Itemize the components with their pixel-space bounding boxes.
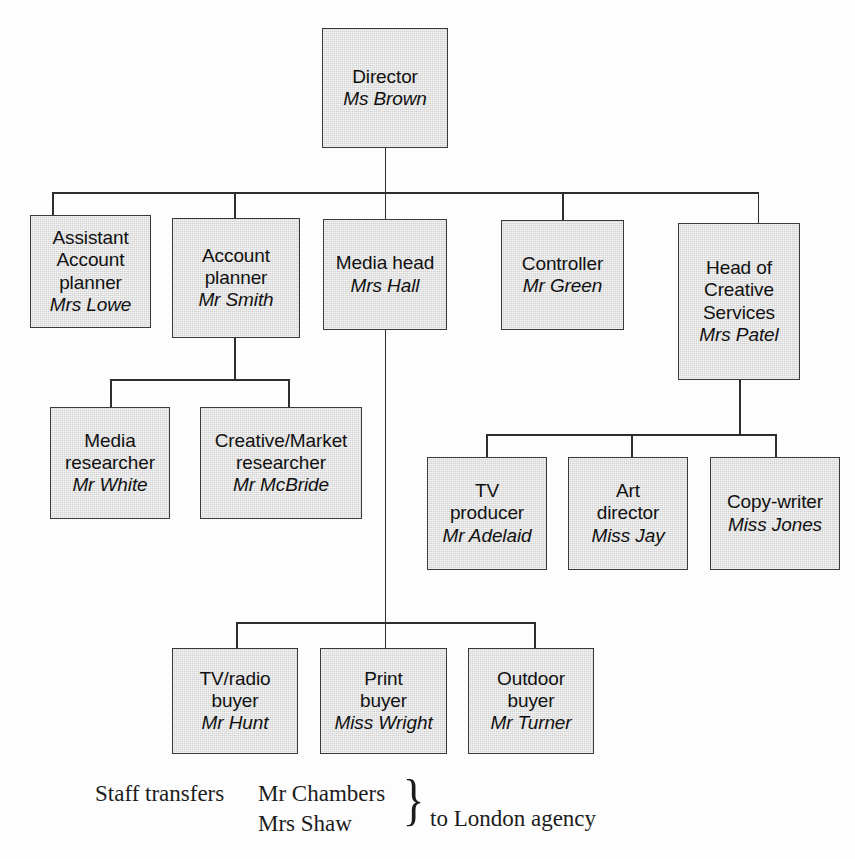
node-head-of-creative-services-role: Head of Creative Services <box>703 257 775 324</box>
node-media-head-role: Media head <box>336 252 434 274</box>
connector-researchers-bus <box>110 379 289 381</box>
node-tv-radio-buyer-person: Mr Hunt <box>202 712 269 734</box>
connector-drop-assistant-planner <box>52 192 54 215</box>
node-copy-writer[interactable]: Copy-writer Miss Jones <box>710 457 840 570</box>
node-creative-market-researcher-person: Mr McBride <box>233 474 329 496</box>
footnote-transfer-names: Mr Chambers Mrs Shaw <box>258 779 385 840</box>
connector-drop-copywriter <box>775 434 777 457</box>
node-assistant-account-planner-person: Mrs Lowe <box>50 294 132 316</box>
connector-drop-media-researcher <box>110 379 112 407</box>
footnote-brace-icon: } <box>403 772 425 828</box>
node-print-buyer-role: Print buyer <box>360 668 407 712</box>
footnote-name-2: Mrs Shaw <box>258 809 385 839</box>
connector-drop-account-planner <box>234 192 236 218</box>
node-print-buyer-person: Miss Wright <box>334 712 432 734</box>
connector-media-head-spine <box>385 330 387 623</box>
connector-drop-creative-head <box>758 192 760 223</box>
node-tv-radio-buyer-role: TV/radio buyer <box>199 668 270 712</box>
connector-drop-tv-radio-buyer <box>236 622 238 648</box>
node-print-buyer[interactable]: Print buyer Miss Wright <box>320 648 447 754</box>
node-head-of-creative-services-person: Mrs Patel <box>699 324 778 346</box>
node-creative-market-researcher-role: Creative/Market researcher <box>215 430 348 474</box>
node-media-researcher-person: Mr White <box>72 474 147 496</box>
connector-creative-head-stem <box>739 380 741 435</box>
connector-director-stem <box>385 148 387 193</box>
organisation-chart: Director Ms Brown Assistant Account plan… <box>0 0 855 859</box>
connector-drop-media-head <box>385 192 387 219</box>
connector-account-planner-stem <box>234 338 236 380</box>
node-copy-writer-person: Miss Jones <box>728 514 822 536</box>
node-director-role: Director <box>352 66 418 88</box>
node-director-person: Ms Brown <box>343 88 427 110</box>
node-account-planner[interactable]: Account planner Mr Smith <box>172 218 300 338</box>
node-outdoor-buyer-person: Mr Turner <box>490 712 571 734</box>
node-copy-writer-role: Copy-writer <box>727 491 823 513</box>
node-account-planner-role: Account planner <box>202 245 270 289</box>
connector-drop-print-buyer <box>385 622 387 648</box>
node-director[interactable]: Director Ms Brown <box>322 28 448 148</box>
node-outdoor-buyer-role: Outdoor buyer <box>497 668 565 712</box>
node-controller[interactable]: Controller Mr Green <box>501 220 624 330</box>
node-art-director[interactable]: Art director Miss Jay <box>568 457 688 570</box>
node-outdoor-buyer[interactable]: Outdoor buyer Mr Turner <box>468 648 594 754</box>
node-media-head[interactable]: Media head Mrs Hall <box>323 219 447 330</box>
node-art-director-person: Miss Jay <box>591 525 664 547</box>
footnote-name-1: Mr Chambers <box>258 779 385 809</box>
node-controller-person: Mr Green <box>523 275 602 297</box>
connector-drop-controller <box>562 192 564 220</box>
node-art-director-role: Art director <box>597 480 660 524</box>
node-media-researcher[interactable]: Media researcher Mr White <box>50 407 170 519</box>
node-media-researcher-role: Media researcher <box>65 430 155 474</box>
connector-drop-tv-producer <box>486 434 488 457</box>
node-assistant-account-planner-role: Assistant Account planner <box>52 227 128 294</box>
connector-row2-bus <box>52 192 759 194</box>
connector-drop-creative-researcher <box>288 379 290 407</box>
node-head-of-creative-services[interactable]: Head of Creative Services Mrs Patel <box>678 223 800 380</box>
node-assistant-account-planner[interactable]: Assistant Account planner Mrs Lowe <box>30 215 151 328</box>
node-tv-producer-role: TV producer <box>450 480 524 524</box>
footnote-destination: to London agency <box>430 806 596 832</box>
footnote-label: Staff transfers <box>95 781 224 807</box>
connector-drop-outdoor-buyer <box>534 622 536 648</box>
node-tv-producer[interactable]: TV producer Mr Adelaid <box>427 457 547 570</box>
connector-drop-art-director <box>631 434 633 457</box>
node-controller-role: Controller <box>522 253 603 275</box>
node-creative-market-researcher[interactable]: Creative/Market researcher Mr McBride <box>200 407 362 519</box>
node-tv-producer-person: Mr Adelaid <box>442 525 531 547</box>
node-account-planner-person: Mr Smith <box>198 289 273 311</box>
node-media-head-person: Mrs Hall <box>351 275 420 297</box>
node-tv-radio-buyer[interactable]: TV/radio buyer Mr Hunt <box>172 648 298 754</box>
